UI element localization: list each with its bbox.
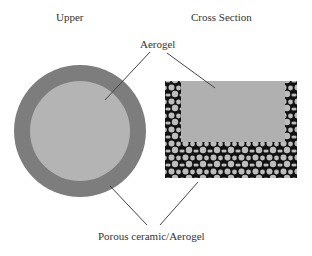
- upper-view-circle: [14, 65, 146, 197]
- diagram-canvas: [0, 0, 312, 256]
- cross-section-view: [165, 81, 297, 178]
